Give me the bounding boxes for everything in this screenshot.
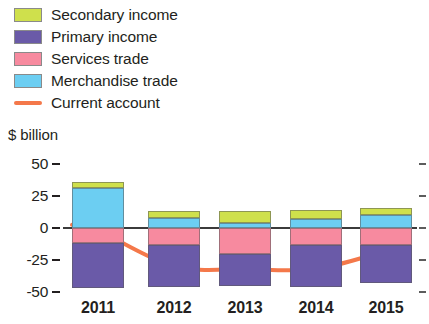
chart-figure: Secondary income Primary income Services… bbox=[0, 0, 429, 324]
bar-segment-services-trade-2013 bbox=[219, 228, 271, 254]
y-tick-mark-right-25 bbox=[419, 195, 426, 197]
bar-segment-secondary-income-2013 bbox=[219, 211, 271, 223]
bar-segment-primary-income-2015 bbox=[360, 245, 412, 283]
y-tick-mark-left-neg50 bbox=[52, 291, 60, 293]
x-tick-label-2013: 2013 bbox=[228, 300, 263, 316]
bar-group-2014 bbox=[290, 0, 342, 324]
x-tick-label-2014: 2014 bbox=[299, 300, 334, 316]
y-tick-label-0: 0 bbox=[0, 220, 48, 236]
y-tick-label-50: 50 bbox=[0, 156, 48, 172]
y-tick-label-25: 25 bbox=[0, 188, 48, 204]
bar-segment-services-trade-2015 bbox=[360, 228, 412, 245]
x-tick-label-2015: 2015 bbox=[369, 300, 404, 316]
plot-area: 50250-25-5020112012201320142015 bbox=[0, 0, 429, 324]
y-tick-label-neg50: -50 bbox=[0, 284, 48, 300]
y-tick-mark-left-25 bbox=[52, 195, 60, 197]
y-tick-mark-right-0 bbox=[419, 227, 426, 229]
bar-segment-primary-income-2014 bbox=[290, 245, 342, 287]
bar-group-2013 bbox=[219, 0, 271, 324]
bar-segment-services-trade-2014 bbox=[290, 228, 342, 245]
x-tick-label-2011: 2011 bbox=[81, 300, 115, 316]
y-tick-mark-left-50 bbox=[52, 163, 60, 165]
y-tick-mark-left-neg25 bbox=[52, 259, 60, 261]
y-tick-mark-right-neg25 bbox=[419, 259, 426, 261]
x-tick-label-2012: 2012 bbox=[157, 300, 192, 316]
bar-group-2012 bbox=[148, 0, 200, 324]
bar-segment-secondary-income-2011 bbox=[72, 182, 124, 188]
bar-group-2015 bbox=[360, 0, 412, 324]
bar-segment-secondary-income-2015 bbox=[360, 208, 412, 216]
bar-group-2011 bbox=[72, 0, 124, 324]
bar-segment-primary-income-2011 bbox=[72, 243, 124, 288]
bar-segment-merchandise-trade-2014 bbox=[290, 219, 342, 228]
bar-segment-primary-income-2012 bbox=[148, 245, 200, 287]
bar-segment-secondary-income-2014 bbox=[290, 210, 342, 219]
y-tick-mark-right-neg50 bbox=[419, 291, 426, 293]
bar-segment-primary-income-2013 bbox=[219, 254, 271, 286]
bar-segment-services-trade-2012 bbox=[148, 228, 200, 245]
bar-segment-services-trade-2011 bbox=[72, 228, 124, 243]
y-tick-mark-right-50 bbox=[419, 163, 426, 165]
y-tick-mark-left-0 bbox=[52, 227, 60, 229]
y-tick-label-neg25: -25 bbox=[0, 252, 48, 268]
bar-segment-merchandise-trade-2011 bbox=[72, 188, 124, 228]
bar-segment-merchandise-trade-2015 bbox=[360, 215, 412, 228]
bar-segment-merchandise-trade-2012 bbox=[148, 218, 200, 228]
bar-segment-secondary-income-2012 bbox=[148, 211, 200, 217]
